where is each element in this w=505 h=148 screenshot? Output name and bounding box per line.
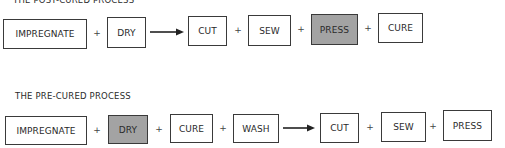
pre-step-dry: DRY	[108, 115, 148, 144]
post-step-sew: SEW	[248, 15, 291, 46]
arrow-icon	[150, 28, 184, 36]
post-step-press: PRESS	[311, 14, 358, 45]
post-cured-title: THE POST-CURED PROCESS	[13, 0, 134, 5]
pre-step-cure: CURE	[170, 114, 213, 143]
plus-connector: +	[364, 122, 376, 132]
post-step-cure: CURE	[378, 13, 423, 43]
pre-cured-title: THE PRE-CURED PROCESS	[15, 91, 131, 101]
pre-step-wash: WASH	[233, 114, 279, 143]
pre-step-impregnate: IMPREGNATE	[5, 116, 87, 145]
plus-connector: +	[362, 23, 374, 33]
post-step-cut: CUT	[188, 16, 227, 46]
post-step-impregnate: IMPREGNATE	[3, 19, 87, 49]
plus-connector: +	[91, 125, 103, 135]
plus-connector: +	[427, 121, 439, 131]
post-step-dry: DRY	[107, 17, 146, 48]
plus-connector: +	[153, 124, 165, 134]
plus-connector: +	[232, 25, 244, 35]
plus-connector: +	[295, 24, 307, 34]
pre-step-sew: SEW	[381, 112, 426, 142]
pre-step-press: PRESS	[443, 110, 492, 141]
arrow-icon	[283, 124, 315, 132]
plus-connector: +	[217, 123, 229, 133]
pre-step-cut: CUT	[320, 113, 359, 143]
plus-connector: +	[91, 28, 103, 38]
